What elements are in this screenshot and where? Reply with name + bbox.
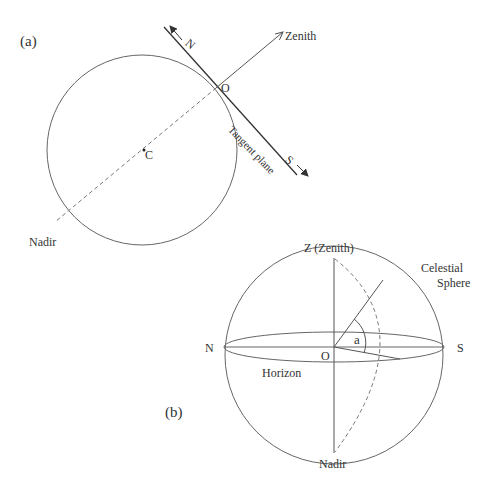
label-celestial: Celestial bbox=[421, 262, 463, 274]
label-sphere: Sphere bbox=[437, 277, 470, 289]
earth-circle bbox=[47, 55, 237, 245]
tangent-plane-line bbox=[164, 27, 297, 175]
label-horizon: Horizon bbox=[262, 367, 301, 379]
figure-b bbox=[224, 246, 444, 464]
label-nadir-a: Nadir bbox=[29, 236, 56, 248]
south-arrow bbox=[297, 165, 308, 176]
panel-label-b: (b) bbox=[165, 405, 183, 420]
diagram-canvas bbox=[0, 0, 489, 488]
label-center: C bbox=[145, 149, 153, 161]
label-observer-a: O bbox=[221, 82, 230, 94]
label-nadir-b: Nadir bbox=[319, 458, 346, 470]
label-angle-a: a bbox=[354, 333, 360, 346]
vertical-circle-dashed-arc bbox=[335, 259, 380, 452]
label-observer-b: O bbox=[321, 350, 330, 362]
label-zenith-a: Zenith bbox=[285, 30, 316, 42]
label-north-b: N bbox=[205, 342, 214, 354]
nadir-dashed-line bbox=[55, 88, 216, 222]
label-zenith-b: Z (Zenith) bbox=[304, 242, 354, 254]
north-arrow bbox=[170, 26, 182, 40]
zenith-arrow bbox=[216, 32, 283, 88]
azimuth-foot-line bbox=[334, 347, 400, 359]
figure-a bbox=[47, 26, 308, 245]
label-south-b: S bbox=[457, 342, 464, 354]
panel-label-a: (a) bbox=[20, 34, 37, 49]
